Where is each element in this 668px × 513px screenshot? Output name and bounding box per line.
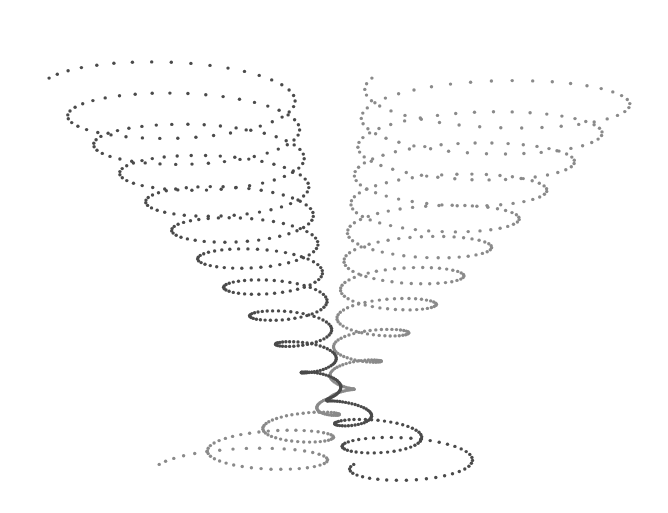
- data-point: [185, 186, 188, 189]
- data-point: [203, 240, 206, 243]
- data-point: [272, 220, 275, 223]
- data-point: [570, 165, 573, 168]
- data-point: [386, 307, 389, 310]
- data-point: [390, 436, 393, 439]
- data-point: [280, 83, 283, 86]
- data-point: [371, 305, 374, 308]
- data-point: [347, 278, 350, 281]
- data-point: [360, 117, 363, 120]
- data-point: [295, 311, 298, 314]
- data-point: [294, 429, 297, 432]
- data-point: [348, 251, 351, 254]
- data-point: [295, 229, 298, 232]
- data-point: [266, 151, 269, 154]
- data-point: [470, 456, 473, 459]
- data-point: [384, 96, 387, 99]
- data-point: [326, 432, 329, 435]
- data-point: [306, 257, 309, 260]
- data-point: [429, 299, 432, 302]
- data-point: [66, 69, 69, 72]
- data-point: [545, 112, 548, 115]
- data-point: [402, 329, 405, 332]
- data-point: [592, 123, 595, 126]
- data-point: [217, 439, 220, 442]
- data-point: [91, 99, 94, 102]
- data-point: [350, 402, 353, 405]
- data-point: [268, 237, 271, 240]
- data-point: [522, 200, 525, 203]
- data-point: [399, 448, 402, 451]
- data-point: [175, 234, 178, 237]
- data-point: [531, 79, 534, 82]
- data-point: [356, 359, 359, 362]
- data-point: [234, 126, 237, 129]
- data-point: [353, 403, 356, 406]
- data-point: [383, 334, 386, 337]
- data-point: [414, 228, 417, 231]
- data-point: [292, 94, 295, 97]
- data-point: [291, 224, 294, 227]
- data-point: [204, 93, 207, 96]
- data-point: [304, 177, 307, 180]
- data-point: [266, 104, 269, 107]
- data-point: [176, 137, 179, 140]
- data-point: [150, 60, 153, 63]
- data-point: [374, 184, 377, 187]
- data-point: [322, 293, 325, 296]
- data-point: [397, 237, 400, 240]
- data-point: [449, 82, 452, 85]
- data-point: [301, 341, 304, 344]
- data-point: [278, 235, 281, 238]
- data-point: [351, 299, 354, 302]
- data-point: [515, 213, 518, 216]
- data-point: [344, 401, 347, 404]
- data-point: [292, 253, 295, 256]
- data-point: [333, 411, 336, 414]
- data-point: [391, 168, 394, 171]
- data-point: [326, 411, 329, 414]
- data-point: [151, 186, 154, 189]
- data-point: [423, 145, 426, 148]
- data-point: [478, 229, 481, 232]
- data-point: [389, 334, 392, 337]
- data-point: [357, 166, 360, 169]
- data-point: [531, 179, 534, 182]
- data-point: [305, 203, 308, 206]
- data-point: [391, 252, 394, 255]
- data-point: [465, 450, 468, 453]
- data-point: [250, 466, 253, 469]
- data-point: [600, 134, 603, 137]
- data-point: [231, 266, 234, 269]
- data-point: [228, 216, 231, 219]
- data-point: [405, 171, 408, 174]
- data-point: [189, 62, 192, 65]
- data-point: [504, 178, 507, 181]
- data-point: [310, 342, 313, 345]
- data-point: [404, 447, 407, 450]
- data-point: [273, 279, 276, 282]
- data-point: [213, 457, 216, 460]
- data-point: [194, 239, 197, 242]
- data-point: [199, 254, 202, 257]
- data-point: [248, 184, 251, 187]
- data-point: [174, 163, 177, 166]
- data-point: [173, 225, 176, 228]
- data-point: [408, 308, 411, 311]
- data-point: [425, 477, 428, 480]
- data-point: [339, 353, 342, 356]
- data-point: [319, 308, 322, 311]
- data-point: [207, 251, 210, 254]
- data-point: [317, 453, 320, 456]
- data-point: [598, 127, 601, 130]
- data-point: [356, 242, 359, 245]
- data-point: [287, 232, 290, 235]
- data-point: [412, 144, 415, 147]
- data-point: [307, 222, 310, 225]
- data-point: [456, 270, 459, 273]
- data-point: [429, 147, 432, 150]
- data-point: [477, 239, 480, 242]
- data-point: [257, 278, 260, 281]
- data-point: [314, 343, 317, 346]
- data-point: [293, 317, 296, 320]
- data-point: [237, 247, 240, 250]
